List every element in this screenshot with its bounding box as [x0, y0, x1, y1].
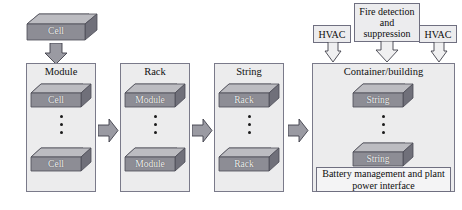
arrow-fire-to-container [375, 41, 399, 63]
container-top-block: String [353, 82, 413, 112]
hvac-left-label: HVAC [318, 29, 345, 40]
string-bottom-block: Rack [219, 146, 279, 176]
container-ellipsis [377, 115, 389, 134]
diagram-canvas: Cell Module Cell Cell [0, 0, 462, 210]
arrow-hvac-right-to-container [430, 42, 448, 63]
arrow-module-to-rack [98, 118, 119, 143]
fire-detection-box: Fire detection and suppression [354, 3, 420, 42]
arrow-string-to-container [288, 118, 309, 143]
hvac-right-box: HVAC [419, 25, 457, 43]
fire-detection-label: Fire detection and suppression [357, 6, 417, 39]
string-ellipsis [243, 115, 255, 134]
arrow-cell-to-module [44, 43, 68, 65]
hvac-right-label: HVAC [424, 29, 451, 40]
battery-management-label: Battery management and plant power inter… [319, 168, 448, 191]
source-block-cell: Cell [27, 12, 97, 46]
panel-container-title: Container/building [312, 66, 455, 78]
arrow-hvac-left-to-container [324, 42, 342, 63]
string-top-block: Rack [219, 82, 279, 112]
battery-management-strip: Battery management and plant power inter… [316, 167, 451, 192]
rack-top-block: Module [125, 82, 185, 112]
hvac-left-box: HVAC [313, 25, 351, 43]
panel-module-title: Module [26, 66, 96, 78]
panel-rack-title: Rack [120, 66, 190, 78]
cell-3d-shape [27, 12, 97, 46]
arrow-rack-to-string [192, 118, 213, 143]
module-bottom-block: Cell [31, 146, 91, 176]
rack-ellipsis [149, 115, 161, 134]
panel-string-title: String [214, 66, 284, 78]
module-ellipsis [55, 115, 67, 134]
module-top-block: Cell [31, 82, 91, 112]
rack-bottom-block: Module [125, 146, 185, 176]
